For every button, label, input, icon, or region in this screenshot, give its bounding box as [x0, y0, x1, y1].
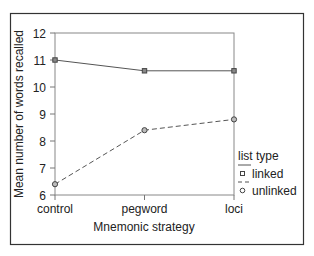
y-tick-label: 12 [33, 27, 47, 41]
x-tick-label-pegword: pegword [121, 202, 167, 216]
legend-unlinked-label: unlinked [252, 184, 297, 198]
data-point-square-icon [53, 58, 57, 62]
y-tick-label: 11 [34, 54, 47, 68]
y-tick-label: 9 [39, 108, 46, 122]
x-tick-label-control: control [37, 202, 73, 216]
x-axis-title: Mnemonic strategy [93, 220, 194, 234]
data-point-circle-icon [231, 117, 236, 122]
y-tick-label: 10 [33, 81, 47, 95]
data-point-circle-icon [142, 128, 147, 133]
line-chart: 6789101112 controlpegwordloci Mnemonic s… [0, 0, 314, 256]
x-tick-label-loci: loci [225, 202, 243, 216]
y-tick-label: 8 [39, 135, 46, 149]
y-axis-title: Mean number of words recalled [12, 30, 26, 198]
data-point-square-icon [142, 69, 146, 73]
legend-title: list type [238, 149, 279, 163]
legend-linked-label: linked [252, 167, 283, 181]
data-point-circle-icon [52, 182, 57, 187]
data-point-square-icon [232, 69, 236, 73]
y-tick-label: 6 [39, 189, 46, 203]
y-tick-label: 7 [39, 162, 46, 176]
